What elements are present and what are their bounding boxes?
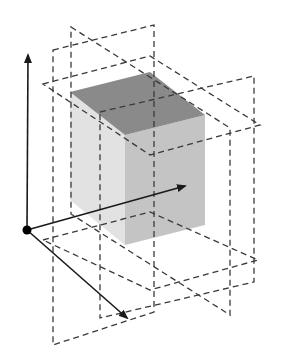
cube-front-face <box>125 115 205 245</box>
z-axis <box>27 230 127 318</box>
cube <box>70 72 205 245</box>
y-axis <box>27 55 28 230</box>
cube-axes-diagram <box>0 0 308 345</box>
origin-point <box>23 226 32 235</box>
